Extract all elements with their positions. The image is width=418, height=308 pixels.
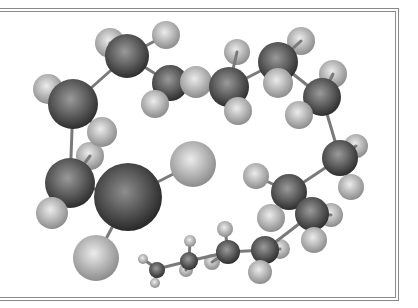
carbon-atom: [216, 240, 240, 264]
hydrogen-atom: [285, 101, 313, 129]
hydrogen-atom: [257, 204, 285, 232]
hydrogen-atom: [87, 117, 117, 147]
hydrogen-atom: [138, 254, 148, 264]
hydrogen-atom: [170, 141, 216, 187]
hydrogen-atom: [243, 163, 269, 189]
carbon-atom: [322, 140, 358, 176]
heavy-atom: [94, 163, 162, 231]
carbon-atom: [180, 252, 198, 270]
hydrogen-atom: [36, 197, 68, 229]
carbon-atom: [48, 79, 98, 129]
hydrogen-atom: [73, 235, 119, 281]
molecule-model: [0, 0, 418, 308]
hydrogen-atom: [301, 227, 327, 253]
hydrogen-atom: [150, 278, 160, 288]
carbon-atom: [295, 197, 329, 231]
hydrogen-atom: [180, 66, 212, 98]
hydrogen-atom: [248, 260, 272, 284]
hydrogen-atom: [217, 221, 233, 237]
hydrogen-atom: [184, 235, 196, 247]
hydrogen-atom: [224, 97, 252, 125]
carbon-atom: [105, 34, 149, 78]
hydrogen-atom: [338, 174, 364, 200]
carbon-atom: [251, 236, 279, 264]
hydrogen-atom: [152, 21, 180, 49]
hydrogen-atom: [141, 90, 169, 118]
hydrogen-atom: [263, 68, 293, 98]
carbon-atom: [149, 262, 165, 278]
